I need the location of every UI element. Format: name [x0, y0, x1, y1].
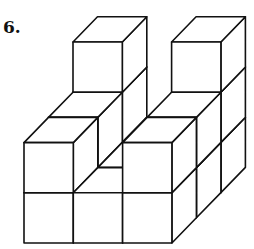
cube-front-face [123, 143, 172, 193]
cube-front-face [172, 42, 221, 92]
cube-front-face [24, 143, 73, 193]
cube-front-face [24, 193, 73, 243]
cube-front-face [123, 193, 172, 243]
cube-stack-figure [0, 0, 254, 249]
cube-front-face [73, 42, 122, 92]
cube-front-face [73, 193, 122, 243]
